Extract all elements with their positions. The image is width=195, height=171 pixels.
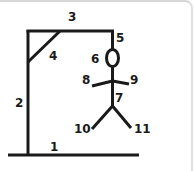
left-arm-line [92,81,113,86]
label-3: 3 [68,10,76,24]
right-leg-line [113,106,132,128]
label-8: 8 [82,73,90,87]
label-2: 2 [15,96,23,110]
hangman-diagram: 1 2 3 4 5 6 7 8 9 10 11 [0,0,195,171]
label-11: 11 [134,122,151,136]
label-9: 9 [130,73,138,87]
label-10: 10 [74,122,91,136]
label-1: 1 [50,140,58,154]
label-4: 4 [49,49,57,63]
label-5: 5 [116,31,124,45]
label-6: 6 [91,52,99,66]
head-ellipse [107,50,119,67]
right-arm-line [113,81,130,84]
label-7: 7 [115,91,123,105]
left-leg-line [92,106,113,129]
